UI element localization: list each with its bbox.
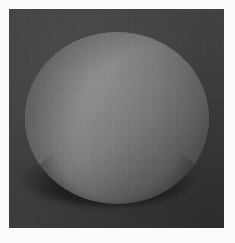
sphere-group [25, 32, 209, 204]
image-canvas [0, 0, 235, 243]
sphere [25, 32, 209, 204]
render-viewport [9, 9, 224, 228]
